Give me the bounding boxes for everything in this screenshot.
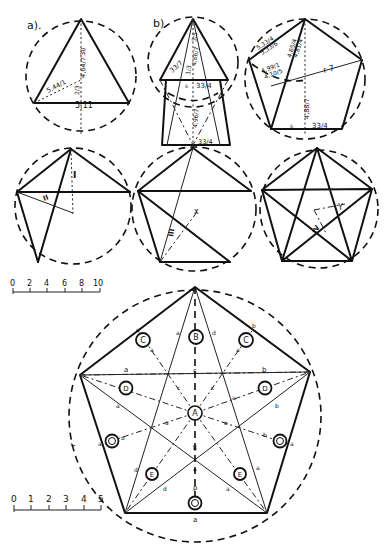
mark-iii: III xyxy=(167,228,176,237)
small-letter: b xyxy=(252,322,256,329)
diagonal-down xyxy=(38,149,71,262)
mark-iv: IV xyxy=(311,224,322,235)
diagonal-top xyxy=(160,148,193,262)
small-letter: a xyxy=(290,440,294,447)
intersection-dot xyxy=(194,448,197,451)
circle-e-right: E xyxy=(234,468,246,480)
intersection-dot xyxy=(194,469,197,472)
spoke-bottom-left xyxy=(125,413,195,513)
dim-height-lower: 4,96/7 xyxy=(191,108,200,128)
circle-o-right xyxy=(274,435,287,448)
spoke-right xyxy=(195,372,310,413)
dim-bottom-base: 33/4 xyxy=(198,138,213,146)
small-letter: a xyxy=(232,394,236,401)
radius-line xyxy=(271,60,362,86)
small-letter: o xyxy=(224,419,228,426)
small-letter: a xyxy=(165,419,169,426)
small-letter: a xyxy=(176,329,180,336)
tick-label: 4 xyxy=(81,494,87,504)
svg-text:C: C xyxy=(243,336,249,345)
small-letter: a xyxy=(256,464,260,471)
svg-text:D: D xyxy=(262,385,267,393)
figure-a: a). 5,11 5,44/1 4,64/7 30 2/3 xyxy=(26,19,136,135)
small-letter: a xyxy=(226,485,230,492)
dim-s: s xyxy=(290,122,293,129)
spoke-left xyxy=(80,375,195,413)
label-a-horiz: a xyxy=(124,366,128,374)
dim-height: 4,64/7 xyxy=(79,57,88,78)
svg-text:E: E xyxy=(238,471,242,479)
circle-e-left: E xyxy=(146,468,158,480)
small-letter: b xyxy=(263,431,267,438)
svg-text:D: D xyxy=(123,385,128,393)
svg-text:C: C xyxy=(140,336,146,345)
small-letter: d xyxy=(134,466,138,473)
tick-label: 2 xyxy=(27,279,32,288)
dim-inner: 2/3 xyxy=(73,85,80,95)
circle-a: A xyxy=(188,406,202,420)
circle-o-left xyxy=(106,435,119,448)
tick-label: 4 xyxy=(44,279,49,288)
tick-label: 10 xyxy=(93,279,103,288)
pentagon-construction-diagram: a). 5,11 5,44/1 4,64/7 30 2/3 b) s 33/4 … xyxy=(0,0,387,550)
circle-d-left: D xyxy=(120,382,133,395)
scale-bar-bottom: 0 1 2 3 4 5 xyxy=(11,494,104,512)
dim-r: r 7 xyxy=(322,63,335,75)
circle-b: B xyxy=(189,330,203,344)
slant-line-left xyxy=(167,19,193,145)
small-letter: a xyxy=(236,346,240,353)
small-letter: c xyxy=(177,384,180,391)
figure-c: 5,33/4 5,33/6 4,65/4 4,81/4 4,99/1 4,10/… xyxy=(245,19,365,139)
tick-label: 3 xyxy=(63,494,69,504)
label-b-horiz: b xyxy=(262,366,267,374)
pentagon-top-edges xyxy=(138,148,251,191)
small-letter: o xyxy=(121,434,125,441)
tick-label: 0 xyxy=(10,279,15,288)
small-letter: a xyxy=(116,402,120,409)
circle-d-right: D xyxy=(259,382,272,395)
pentagram xyxy=(262,148,372,261)
small-letter: d xyxy=(163,485,167,492)
vertical-dotted xyxy=(71,149,73,214)
figure-a-label: a). xyxy=(27,19,42,32)
dim-base: 33/4 xyxy=(196,82,212,90)
mark-i: I xyxy=(73,170,76,180)
figure-f: IV Y xyxy=(260,148,378,268)
small-letter: e xyxy=(136,326,140,333)
spoke-bottom-right xyxy=(195,413,267,513)
figure-b: b) s 33/4 33/7 4,66/7 3/5 1/3 4,96/7 33/… xyxy=(148,17,238,150)
construction-line xyxy=(160,212,197,262)
small-letter: a xyxy=(98,440,102,447)
dim-base: 33/4 xyxy=(312,122,328,130)
small-letter: c xyxy=(211,384,214,391)
figure-d: I II xyxy=(15,148,131,264)
small-letter: a xyxy=(150,346,154,353)
left-edge xyxy=(17,192,38,262)
tick-label: 8 xyxy=(79,279,84,288)
circle-c-right: C xyxy=(239,333,253,347)
scale-bar-top: 0 2 4 6 8 10 xyxy=(10,279,103,294)
small-letter: b xyxy=(275,402,279,409)
dim-inner: 1/3 xyxy=(184,64,192,75)
label-p: p xyxy=(193,484,198,492)
label-a-bottom: a xyxy=(193,516,197,524)
figure-b-label: b) xyxy=(153,17,164,30)
tick-label: 2 xyxy=(46,494,52,504)
mark-y: Y xyxy=(337,203,343,212)
label-r: r xyxy=(68,442,78,448)
diagonal xyxy=(138,191,230,262)
dim-side: 5,44/1 xyxy=(45,78,67,95)
main-pentagram-figure: A B C C D D E xyxy=(68,287,321,542)
mark-x: x xyxy=(194,207,199,216)
tick-label: 0 xyxy=(11,494,17,504)
circle-o-bottom xyxy=(189,497,202,510)
svg-text:A: A xyxy=(192,409,198,418)
label-c: c xyxy=(193,367,197,375)
figure-e: III x xyxy=(132,147,256,271)
dim-height: 4,88/7 xyxy=(303,98,311,119)
dim-base: 5,11 xyxy=(75,101,93,110)
tick-label: 6 xyxy=(62,279,67,288)
pentagon xyxy=(262,148,372,261)
circle-c-left: C xyxy=(136,333,150,347)
svg-text:B: B xyxy=(193,333,199,342)
